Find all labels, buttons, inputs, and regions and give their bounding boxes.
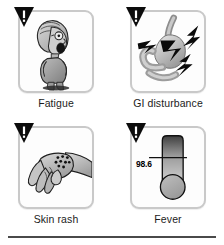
symptom-label-fatigue: Fatigue [38, 98, 74, 110]
symptom-label-gi-disturbance: GI disturbance [133, 98, 203, 110]
symptom-card-gi-disturbance [130, 10, 206, 93]
symptom-cell-fatigue: Fatigue [0, 0, 112, 116]
warning-triangle-icon [12, 121, 36, 145]
warning-triangle-icon [124, 121, 148, 145]
symptom-card-fatigue [18, 10, 94, 93]
symptom-label-skin-rash: Skin rash [34, 214, 79, 226]
warning-triangle-icon [12, 5, 36, 29]
symptom-cell-skin-rash: Skin rash [0, 116, 112, 232]
symptom-cell-fever: 98.6 Fever [112, 116, 224, 232]
bottom-divider [8, 236, 216, 238]
thermometer-reading: 98.6 [136, 159, 152, 169]
symptom-card-skin-rash [18, 126, 94, 209]
warning-triangle-icon [124, 5, 148, 29]
symptom-grid: Fatigue [0, 0, 224, 232]
symptom-label-fever: Fever [154, 214, 181, 226]
symptom-card-fever: 98.6 [130, 126, 206, 209]
symptom-cell-gi-disturbance: GI disturbance [112, 0, 224, 116]
symptom-icon-figure: Fatigue [0, 0, 224, 245]
